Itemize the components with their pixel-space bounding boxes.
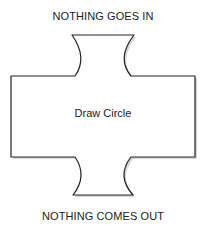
output-label: NOTHING COMES OUT: [0, 210, 206, 222]
process-label: Draw Circle: [0, 107, 206, 119]
